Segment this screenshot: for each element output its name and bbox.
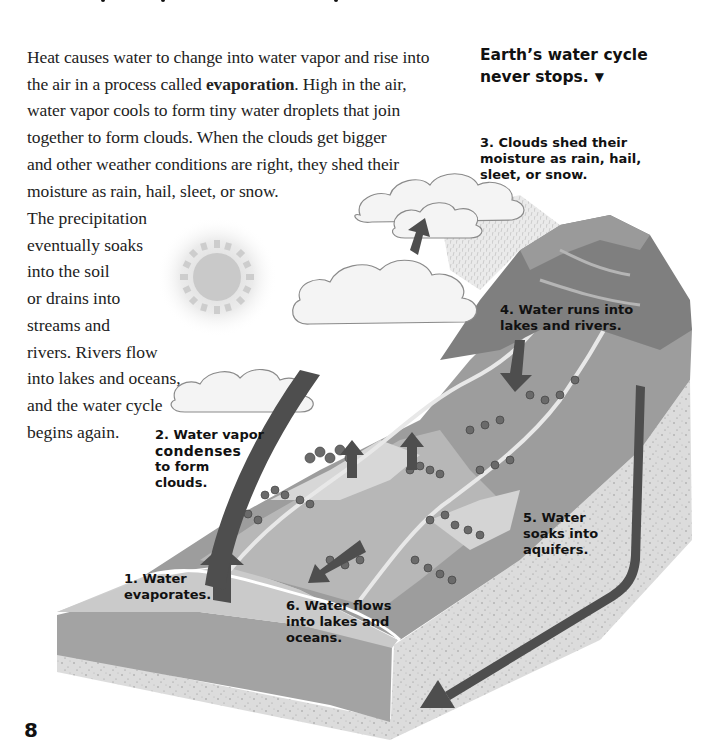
paragraph-line: or drains into: [27, 285, 181, 312]
paragraph-line: water vapor cools to form tiny water dro…: [27, 97, 429, 124]
paragraph-line: The precipitation: [27, 205, 181, 232]
step-5-caption: 5. Water soaks into aquifers.: [523, 510, 598, 558]
term-evaporation: evaporation: [206, 74, 294, 94]
body-paragraph: Heat causes water to change into water v…: [27, 44, 429, 204]
paragraph-line: and the water cycle: [27, 392, 181, 419]
step-6-caption: 6. Water flows into lakes and oceans.: [286, 598, 391, 646]
paragraph-line: moisture as rain, hail, sleet, or snow.: [27, 178, 429, 205]
paragraph-line: streams and: [27, 312, 181, 339]
step-1-caption: 1. Water evaporates.: [124, 571, 211, 603]
paragraph-line: into lakes and oceans,: [27, 365, 181, 392]
step-4-caption: 4. Water runs into lakes and rivers.: [500, 302, 633, 334]
sidebar-title-line: never stops.▼: [480, 66, 648, 88]
wrapped-paragraph: The precipitation eventually soaks into …: [27, 205, 181, 445]
down-triangle-icon: ▼: [595, 66, 604, 88]
paragraph-line: and other weather conditions are right, …: [27, 151, 429, 178]
sidebar-title-line: Earth’s water cycle: [480, 44, 648, 66]
step-3-caption: 3. Clouds shed their moisture as rain, h…: [480, 135, 641, 183]
cloud-middle: [293, 260, 477, 324]
page-number: 8: [24, 718, 38, 742]
paragraph-line: the air in a process called evaporation.…: [27, 71, 429, 98]
paragraph-line: eventually soaks: [27, 232, 181, 259]
sidebar-caption: Earth’s water cycle never stops.▼: [480, 44, 648, 88]
paragraph-line: Heat causes water to change into water v…: [27, 44, 429, 71]
paragraph-line: into the soil: [27, 258, 181, 285]
term-condenses: condenses: [155, 443, 264, 459]
step-2-caption: 2. Water vapor condenses to form clouds.: [155, 427, 264, 491]
paragraph-line: together to form clouds. When the clouds…: [27, 124, 429, 151]
paragraph-line: rivers. Rivers flow: [27, 339, 181, 366]
